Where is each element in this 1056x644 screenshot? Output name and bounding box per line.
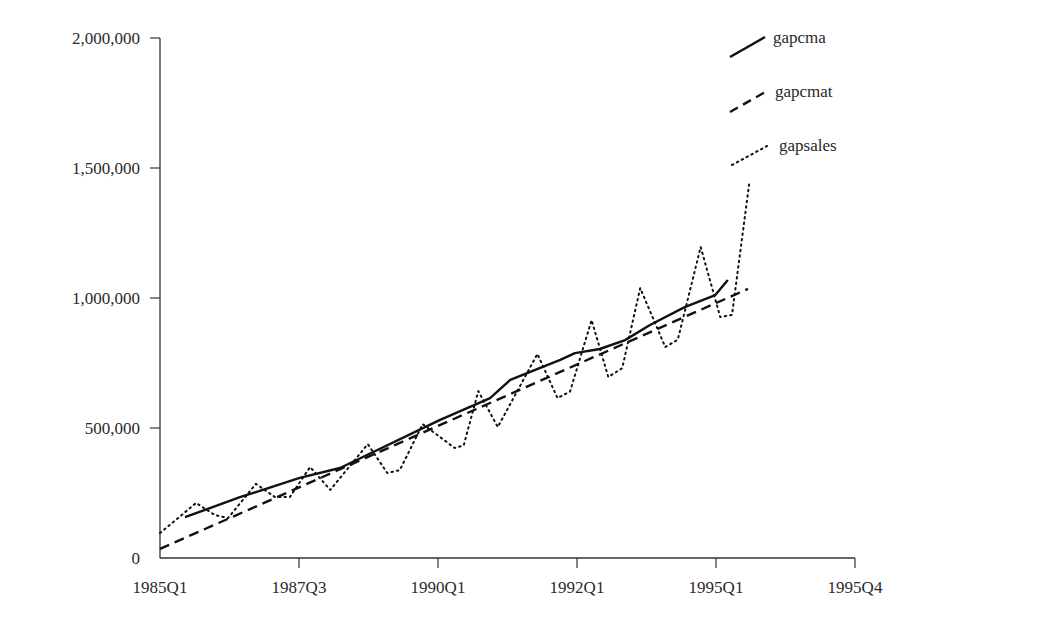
x-tick-label: 1995Q1 (689, 578, 744, 597)
x-ticks: 1985Q11987Q31990Q11992Q11995Q11995Q4 (133, 558, 883, 597)
series-gapcma (185, 280, 728, 517)
axes (160, 38, 855, 558)
legend-label: gapcmat (775, 82, 833, 101)
legend-label: gapcma (773, 28, 826, 47)
legend: gapcma gapcmat gapsales (730, 28, 837, 165)
x-tick-label: 1985Q1 (133, 578, 188, 597)
line-chart: 0500,0001,000,0001,500,0002,000,000 1985… (0, 0, 1056, 644)
legend-item-gapcmat: gapcmat (730, 82, 833, 112)
series-lines (160, 182, 749, 549)
y-tick-label: 500,000 (85, 419, 140, 438)
y-tick-label: 1,500,000 (72, 159, 140, 178)
dashed-line-swatch-icon (730, 91, 767, 112)
series-gapcmat (160, 289, 748, 549)
series-gapsales (160, 182, 749, 533)
legend-label: gapsales (779, 136, 837, 155)
y-tick-label: 2,000,000 (72, 29, 140, 48)
x-tick-label: 1987Q3 (272, 578, 327, 597)
x-tick-label: 1995Q4 (828, 578, 883, 597)
legend-item-gapsales: gapsales (732, 136, 837, 165)
x-tick-label: 1990Q1 (411, 578, 466, 597)
y-tick-label: 1,000,000 (72, 289, 140, 308)
legend-item-gapcma: gapcma (730, 28, 826, 57)
y-tick-label: 0 (132, 549, 141, 568)
x-tick-label: 1992Q1 (550, 578, 605, 597)
y-ticks: 0500,0001,000,0001,500,0002,000,000 (72, 29, 160, 568)
dotted-line-swatch-icon (732, 146, 767, 165)
solid-line-swatch-icon (730, 37, 765, 57)
